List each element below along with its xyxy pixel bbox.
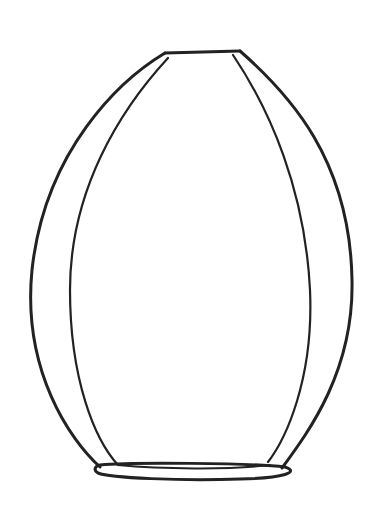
- vase-icon: [0, 0, 387, 515]
- vase-drawing: vase line drawing: [0, 0, 387, 515]
